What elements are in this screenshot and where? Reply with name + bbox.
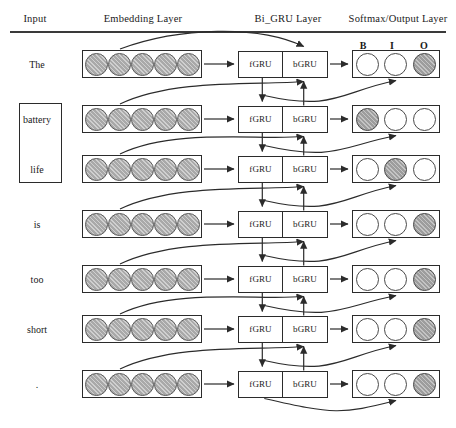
embedding-unit-circle — [131, 213, 154, 236]
embedding-box-row-6 — [82, 370, 202, 398]
output-circle-o-row-6 — [413, 373, 436, 396]
column-header-embedding: Embedding Layer — [104, 13, 183, 24]
embedding-unit-circle — [177, 373, 200, 396]
embedding-unit-circle — [85, 108, 108, 131]
embedding-unit-circle — [85, 158, 108, 181]
connector-path — [264, 296, 396, 313]
embedding-unit-circle — [177, 53, 200, 76]
embedding-unit-circle — [108, 108, 131, 131]
embedding-unit-circle — [108, 373, 131, 396]
backward-gru-cell-row-0: bGRU — [283, 52, 327, 77]
embedding-unit-circle — [131, 108, 154, 131]
column-header-input: Input — [23, 13, 46, 24]
embedding-unit-circle — [154, 53, 177, 76]
output-circle-i-row-4 — [384, 268, 407, 291]
forward-gru-cell-row-2: fGRU — [239, 157, 283, 182]
backward-gru-cell-row-3: bGRU — [283, 212, 327, 237]
embedding-unit-circle — [131, 53, 154, 76]
embedding-unit-circle — [131, 318, 154, 341]
column-header-bigru: Bi_GRU Layer — [255, 13, 322, 24]
connector-path — [264, 136, 396, 153]
embedding-unit-circle — [177, 268, 200, 291]
embedding-unit-circle — [85, 268, 108, 291]
forward-gru-cell-row-6: fGRU — [239, 372, 283, 397]
input-token-4: too — [31, 274, 44, 285]
output-circle-b-row-0 — [356, 53, 379, 76]
gru-box-row-0: fGRUbGRU — [238, 51, 328, 78]
backward-gru-cell-row-6: bGRU — [283, 372, 327, 397]
output-circle-i-row-6 — [384, 373, 407, 396]
backward-gru-cell-row-2: bGRU — [283, 157, 327, 182]
output-circle-i-row-0 — [384, 53, 407, 76]
embedding-unit-circle — [108, 318, 131, 341]
output-circle-i-row-1 — [384, 108, 407, 131]
output-circle-b-row-2 — [356, 158, 379, 181]
embedding-box-row-0 — [82, 50, 202, 78]
output-circle-o-row-3 — [413, 213, 436, 236]
output-circle-o-row-5 — [413, 318, 436, 341]
connector-path — [264, 186, 396, 207]
connector-path — [120, 137, 304, 155]
embedding-unit-circle — [85, 213, 108, 236]
gru-box-row-2: fGRUbGRU — [238, 156, 328, 183]
forward-gru-cell-row-5: fGRU — [239, 317, 283, 342]
input-token-3: is — [34, 219, 41, 230]
embedding-unit-circle — [85, 318, 108, 341]
output-circle-o-row-4 — [413, 268, 436, 291]
backward-gru-cell-row-1: bGRU — [283, 107, 327, 132]
embedding-unit-circle — [154, 268, 177, 291]
connector-path — [120, 242, 304, 265]
output-circle-o-row-2 — [413, 158, 436, 181]
connector-path — [264, 81, 396, 102]
embedding-unit-circle — [108, 268, 131, 291]
gru-box-row-6: fGRUbGRU — [238, 371, 328, 398]
softmax-box-row-5 — [352, 315, 440, 343]
embedding-unit-circle — [177, 213, 200, 236]
embedding-unit-circle — [108, 158, 131, 181]
forward-gru-cell-row-4: fGRU — [239, 267, 283, 292]
output-circle-b-row-6 — [356, 373, 379, 396]
softmax-box-row-3 — [352, 210, 440, 238]
forward-gru-cell-row-1: fGRU — [239, 107, 283, 132]
embedding-unit-circle — [154, 373, 177, 396]
gru-box-row-3: fGRUbGRU — [238, 211, 328, 238]
embedding-unit-circle — [154, 108, 177, 131]
embedding-box-row-4 — [82, 265, 202, 293]
softmax-box-row-6 — [352, 370, 440, 398]
embedding-unit-circle — [131, 268, 154, 291]
diagram-canvas: InputEmbedding LayerBi_GRU LayerSoftmax/… — [0, 0, 456, 428]
embedding-unit-circle — [85, 373, 108, 396]
gru-box-row-1: fGRUbGRU — [238, 106, 328, 133]
embedding-unit-circle — [177, 158, 200, 181]
embedding-unit-circle — [108, 213, 131, 236]
embedding-unit-circle — [177, 108, 200, 131]
connector-path — [120, 187, 304, 210]
embedding-unit-circle — [154, 158, 177, 181]
aspect-term-box — [19, 103, 62, 183]
forward-gru-cell-row-3: fGRU — [239, 212, 283, 237]
embedding-unit-circle — [131, 158, 154, 181]
input-token-0: The — [29, 59, 45, 70]
connector-path — [120, 347, 304, 370]
embedding-unit-circle — [85, 53, 108, 76]
output-circle-b-row-1 — [356, 108, 379, 131]
forward-gru-cell-row-0: fGRU — [239, 52, 283, 77]
gru-box-row-5: fGRUbGRU — [238, 316, 328, 343]
embedding-unit-circle — [108, 53, 131, 76]
output-circle-b-row-4 — [356, 268, 379, 291]
output-circle-o-row-0 — [413, 53, 436, 76]
gru-box-row-4: fGRUbGRU — [238, 266, 328, 293]
embedding-unit-circle — [154, 318, 177, 341]
output-circle-o-row-1 — [413, 108, 436, 131]
output-circle-b-row-5 — [356, 318, 379, 341]
connector-path — [264, 399, 396, 411]
embedding-unit-circle — [154, 213, 177, 236]
embedding-unit-circle — [131, 373, 154, 396]
embedding-unit-circle — [177, 318, 200, 341]
connector-path — [120, 82, 304, 105]
output-circle-i-row-3 — [384, 213, 407, 236]
embedding-box-row-1 — [82, 105, 202, 133]
backward-gru-cell-row-5: bGRU — [283, 317, 327, 342]
backward-gru-cell-row-4: bGRU — [283, 267, 327, 292]
output-circle-i-row-5 — [384, 318, 407, 341]
